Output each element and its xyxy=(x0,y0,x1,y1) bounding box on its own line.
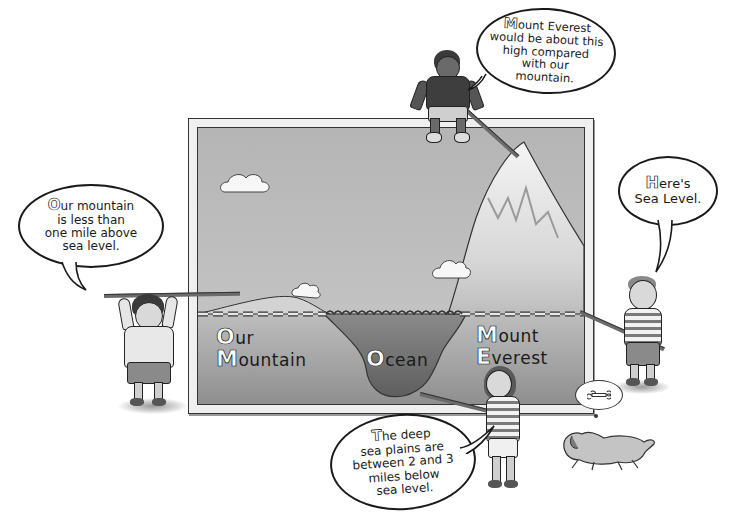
label-initial: M xyxy=(216,348,238,370)
label-initial: M xyxy=(476,324,498,346)
bone-icon xyxy=(587,390,611,400)
speech-tail xyxy=(654,218,678,274)
speech-bubble-deep-sea: The deep sea plains are between 2 and 3 … xyxy=(327,409,479,515)
label-ocean: Ocean xyxy=(366,348,428,370)
speech-tail xyxy=(60,260,90,292)
label-mount-everest: Mount Everest xyxy=(476,324,548,368)
speech-tail xyxy=(458,424,496,454)
speech-bubble-our-mountain: Our mountain is less than one mile above… xyxy=(18,184,164,268)
thought-dot xyxy=(594,414,598,418)
label-initial: E xyxy=(476,346,492,368)
label-initial: O xyxy=(216,326,235,348)
dog-thought-bubble xyxy=(575,380,623,410)
child-right xyxy=(618,276,668,391)
label-our-mountain: Our Mountain xyxy=(216,326,306,370)
diagram-frame: Our Mountain Ocean Mount Everest xyxy=(188,118,594,414)
speech-bubble-sea-level: Here's Sea Level. xyxy=(618,156,718,226)
sleeping-dog xyxy=(558,420,658,472)
child-top xyxy=(412,50,482,145)
label-initial: O xyxy=(366,348,385,370)
child-left xyxy=(110,288,190,413)
speech-bubble-everest: Mount Everest would be about this high c… xyxy=(474,4,618,97)
diagram-canvas: Our Mountain Ocean Mount Everest xyxy=(197,127,585,405)
speech-tail xyxy=(466,72,490,92)
